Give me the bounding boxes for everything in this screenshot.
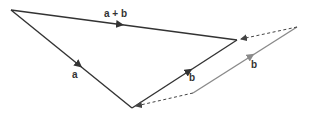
label-a: a xyxy=(72,70,78,80)
vector-b xyxy=(132,40,237,108)
vector-addition-diagram: a + b a b b xyxy=(0,0,310,117)
label-a-plus-b: a + b xyxy=(104,9,127,19)
label-b-translated: b xyxy=(251,60,257,70)
vector-a xyxy=(11,10,132,108)
diagram-svg xyxy=(0,0,310,117)
label-b: b xyxy=(189,73,195,83)
